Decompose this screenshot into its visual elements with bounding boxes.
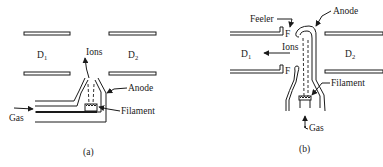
panel-a: D1 D2 Ions Anode Filamen	[9, 32, 156, 158]
dee-d2-label-b: D2	[345, 49, 355, 60]
anode-label-b: Anode	[333, 6, 358, 16]
gas-label-a: Gas	[9, 113, 24, 123]
caption-a: (a)	[83, 147, 94, 158]
dee-plates-b	[230, 27, 383, 73]
feeler-mark-top: F	[285, 29, 290, 39]
panel-b: F F Feeler Anode D1 D2 Ions	[230, 6, 383, 155]
anode-leader-a	[107, 88, 127, 93]
ion-column-right-a	[93, 84, 94, 104]
anode-leader-b	[316, 11, 331, 26]
gas-arrow-a	[14, 108, 33, 109]
filament-b	[299, 96, 311, 108]
anode-chimney-a	[35, 78, 106, 122]
feeler-mark-bottom: F	[285, 66, 290, 76]
dee-d2-label-a: D2	[128, 50, 138, 61]
feeler-leader	[277, 19, 292, 27]
ion-column-left-a	[88, 84, 89, 104]
ion-beam-arrow-a	[85, 58, 89, 78]
dee-d1-label-a: D1	[37, 50, 47, 61]
anode-label-a: Anode	[128, 83, 153, 93]
anode-tube-b	[286, 26, 325, 111]
filament-label-a: Filament	[121, 106, 155, 116]
dee-d1-label-b: D1	[241, 49, 251, 60]
filament-a	[85, 104, 97, 111]
gas-leader-b	[305, 126, 308, 129]
ion-source-diagram: D1 D2 Ions Anode Filamen	[0, 0, 383, 167]
filament-leader-a	[99, 107, 120, 111]
ions-label-a: Ions	[86, 47, 103, 57]
ion-column-left-b	[303, 38, 304, 96]
feeler-label: Feeler	[250, 14, 275, 24]
filament-label-b: Filament	[331, 78, 365, 88]
ions-label-b: Ions	[282, 42, 299, 52]
caption-b: (b)	[299, 144, 310, 155]
gas-label-b: Gas	[309, 123, 324, 133]
